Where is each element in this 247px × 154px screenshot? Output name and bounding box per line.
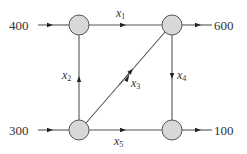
edge-x1 [89, 23, 162, 27]
edge-x5 [89, 128, 162, 132]
node-top-left [69, 15, 89, 35]
node-top-right [162, 15, 182, 35]
inflow-300-arrow [38, 128, 69, 132]
outflow-label-100: 100 [214, 123, 234, 138]
network-flow-diagram: 400 600 300 100 x1 x2 x3 x4 x5 [0, 0, 247, 154]
label-x4: x4 [176, 68, 186, 83]
inflow-400-arrow [38, 23, 69, 27]
label-x5: x5 [113, 134, 123, 149]
edge-x2 [77, 35, 81, 120]
inflow-label-400: 400 [9, 18, 29, 33]
outflow-label-600: 600 [214, 18, 234, 33]
label-x1: x1 [115, 6, 125, 21]
label-x2: x2 [61, 68, 71, 83]
edge-x4 [170, 35, 174, 120]
node-bottom-left [69, 120, 89, 140]
edge-x3 [86, 32, 165, 123]
outflow-600-arrow [182, 23, 212, 27]
node-bottom-right [162, 120, 182, 140]
inflow-label-300: 300 [9, 123, 29, 138]
label-x3: x3 [130, 76, 140, 91]
outflow-100-arrow [182, 128, 212, 132]
